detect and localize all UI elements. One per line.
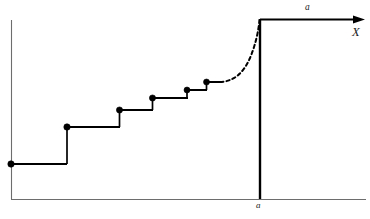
step-point-marker (149, 95, 155, 101)
step-point-marker (184, 87, 190, 93)
figure-container: X a a (0, 0, 370, 219)
asymptotic-dashed-curve (220, 20, 260, 82)
arrow-head-icon (353, 16, 365, 24)
step-point-marker (204, 79, 210, 85)
upper-level-label-a: a (305, 3, 310, 13)
x-axis-label: X (352, 26, 360, 39)
step-point-marker (8, 161, 14, 167)
step-point-marker (64, 124, 70, 130)
step-point-marker (116, 107, 122, 113)
x-tick-label-a: a (256, 201, 261, 210)
step-function-plot (0, 0, 370, 219)
